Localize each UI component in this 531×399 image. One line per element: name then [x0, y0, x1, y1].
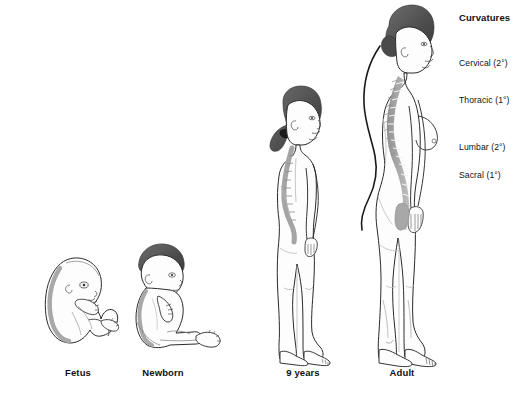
newborn-pupil — [171, 274, 173, 276]
adult-pupil — [423, 43, 425, 45]
nine-years-pupil — [311, 117, 313, 119]
fetus-figure — [45, 258, 119, 343]
fetus-pupil — [83, 284, 86, 287]
curvatures-legend-title: Curvatures — [459, 12, 510, 23]
adult-nipple — [432, 139, 436, 143]
legend-entry-thoracic: Thoracic (1°) — [459, 95, 510, 105]
legend-entry-sacral: Sacral (1°) — [459, 170, 501, 180]
newborn-figure — [136, 244, 221, 348]
stage-caption-nine-years: 9 years — [286, 367, 319, 378]
stage-caption-adult: Adult — [390, 367, 415, 378]
newborn-foot — [196, 332, 220, 347]
stage-caption-fetus: Fetus — [65, 367, 91, 378]
nine-years-figure — [270, 86, 330, 366]
stage-caption-newborn: Newborn — [142, 367, 183, 378]
adult-figure — [361, 5, 437, 367]
spinal-curvature-development-illustration — [0, 0, 531, 399]
legend-entry-cervical: Cervical (2°) — [459, 58, 508, 68]
legend-entry-lumbar: Lumbar (2°) — [459, 142, 506, 152]
